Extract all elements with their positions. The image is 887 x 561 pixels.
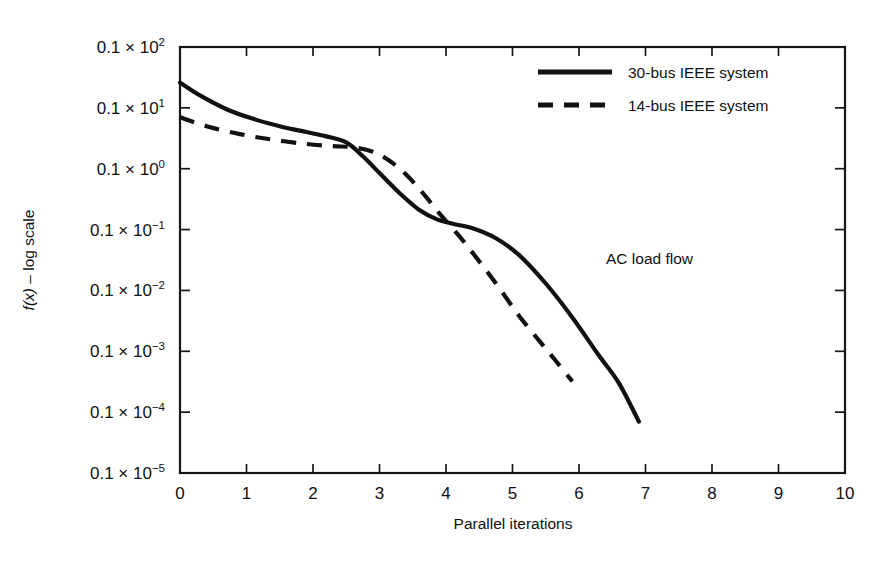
data-series-layer — [180, 83, 639, 422]
y-tick-label: 0.1 × 100 — [97, 158, 165, 179]
y-axis-tick-labels: 0.1 × 1020.1 × 1010.1 × 1000.1 × 10−10.1… — [90, 36, 166, 483]
x-tick-label: 1 — [242, 484, 251, 503]
x-tick-label: 0 — [175, 484, 184, 503]
y-tick-label: 0.1 × 10−4 — [90, 401, 166, 422]
legend-label-14-bus: 14-bus IEEE system — [628, 97, 768, 114]
y-tick-label: 0.1 × 102 — [97, 36, 165, 57]
y-axis-ticks — [180, 108, 845, 412]
x-tick-label: 8 — [707, 484, 716, 503]
svg-text:f(x) – log scale: f(x) – log scale — [20, 210, 37, 311]
y-tick-label: 0.1 × 10−1 — [90, 219, 165, 240]
x-tick-label: 9 — [774, 484, 783, 503]
series-line-30-bus — [180, 83, 639, 422]
y-tick-label: 0.1 × 101 — [97, 97, 165, 118]
plot-annotation: AC load flow — [606, 250, 694, 267]
x-axis-tick-labels: 012345678910 — [175, 484, 854, 503]
x-tick-label: 2 — [308, 484, 317, 503]
chart-svg: 012345678910 0.1 × 1020.1 × 1010.1 × 100… — [0, 0, 887, 561]
x-axis-title: Parallel iterations — [454, 515, 573, 532]
x-tick-label: 10 — [836, 484, 855, 503]
x-tick-label: 7 — [641, 484, 650, 503]
y-axis-title-fx: f(x) — [20, 288, 37, 310]
legend-label-30-bus: 30-bus IEEE system — [628, 64, 768, 81]
x-tick-label: 6 — [574, 484, 583, 503]
y-axis-title-rest: – log scale — [20, 210, 37, 288]
y-tick-label: 0.1 × 10−2 — [90, 279, 165, 300]
figure-container: 012345678910 0.1 × 1020.1 × 1010.1 × 100… — [0, 0, 887, 561]
x-tick-label: 3 — [375, 484, 384, 503]
legend: 30-bus IEEE system 14-bus IEEE system — [538, 64, 768, 114]
y-tick-label: 0.1 × 10−5 — [90, 462, 165, 483]
x-tick-label: 5 — [508, 484, 517, 503]
y-tick-label: 0.1 × 10−3 — [90, 340, 165, 361]
x-tick-label: 4 — [441, 484, 450, 503]
y-axis-title: f(x) – log scale — [20, 210, 37, 311]
